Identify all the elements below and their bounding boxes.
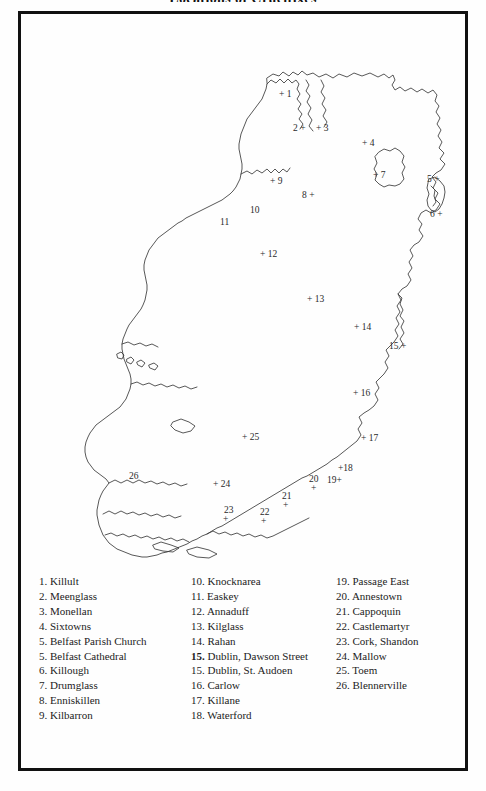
legend-item-name: Castlemartyr xyxy=(353,620,410,632)
legend-item-name: Meenglass xyxy=(50,590,97,602)
legend-item-number: 20. xyxy=(336,590,350,602)
map-marker-3: + 3 xyxy=(316,124,328,134)
legend-item: 24. Mallow xyxy=(336,649,419,664)
island-south-1 xyxy=(153,542,179,552)
strangford-lough xyxy=(431,186,436,206)
shannon-estuary xyxy=(131,382,197,389)
legend-item-name: Annestown xyxy=(352,590,402,602)
legend-item: 22. Castlemartyr xyxy=(336,619,419,634)
map-marker-17: + 17 xyxy=(361,434,378,444)
legend-item-name: Cappoquin xyxy=(353,605,401,617)
legend-item-number: 11. xyxy=(191,590,204,602)
legend-item-name: Mallow xyxy=(353,650,387,662)
legend-item-name: Dublin, St. Audoen xyxy=(208,664,293,676)
legend-item: 18. Waterford xyxy=(191,708,308,723)
clew-bay-inlet xyxy=(122,342,158,347)
legend-item-name: Belfast Cathedral xyxy=(50,650,127,662)
legend-item: 3. Monellan xyxy=(39,604,147,619)
legend-item-name: Toem xyxy=(352,664,377,676)
map-plus-mark-21: + xyxy=(283,501,288,511)
legend-item-name: Carlow xyxy=(208,679,240,691)
map-marker-18: +18 xyxy=(338,464,353,474)
dingle-peninsula xyxy=(109,480,187,486)
map-marker-10: 10 xyxy=(250,206,260,216)
legend-item: 5. Belfast Cathedral xyxy=(39,649,147,664)
legend-item-number: 5. xyxy=(39,635,47,647)
legend-item-number: 8. xyxy=(39,694,47,706)
map-legend: 1. Killult 2. Meenglass 3. Monellan 4. S… xyxy=(21,574,465,768)
legend-item: 4. Sixtowns xyxy=(39,619,147,634)
legend-item-number: 5. xyxy=(39,650,47,662)
legend-item: 12. Annaduff xyxy=(191,604,308,619)
legend-item: 11. Easkey xyxy=(191,589,308,604)
map-plus-mark-20: + xyxy=(311,484,316,494)
lough-neagh xyxy=(374,148,405,187)
legend-item-number: 3. xyxy=(39,605,47,617)
legend-item: 21. Cappoquin xyxy=(336,604,419,619)
legend-item: 25. Toem xyxy=(336,663,419,678)
legend-item-number: 17. xyxy=(191,694,205,706)
legend-item: 19. Passage East xyxy=(336,574,419,589)
legend-item: 8. Enniskillen xyxy=(39,693,147,708)
legend-item: 26. Blennerville xyxy=(336,678,419,693)
map-marker-26: 26 xyxy=(129,472,139,482)
legend-item-name: Rahan xyxy=(208,635,236,647)
island-west-3 xyxy=(137,360,145,367)
legend-item: 13. Kilglass xyxy=(191,619,308,634)
legend-item-name: Sixtowns xyxy=(50,620,91,632)
legend-item-number: 25. xyxy=(336,664,350,676)
legend-item-number: 9. xyxy=(39,709,47,721)
legend-item: 15. Dublin, Dawson Street xyxy=(191,649,308,664)
legend-item-number: 2. xyxy=(39,590,47,602)
ireland-map: + 1 2 + + 3 + 4 5 + 6 + + 7 8 + + 9 10 1… xyxy=(21,14,465,574)
island-achill xyxy=(171,419,195,433)
legend-item: 23. Cork, Shandon xyxy=(336,634,419,649)
lough-swilly xyxy=(306,80,313,131)
legend-item: 17. Killane xyxy=(191,693,308,708)
legend-item: 14. Rahan xyxy=(191,634,308,649)
legend-item-name: Knocknarea xyxy=(208,575,261,587)
map-marker-2: 2 + xyxy=(293,124,305,134)
legend-item-name: Killult xyxy=(50,575,79,587)
map-marker-7: + 7 xyxy=(373,171,385,181)
map-marker-13: + 13 xyxy=(307,295,324,305)
map-marker-16: + 16 xyxy=(353,389,370,399)
legend-item-name: Enniskillen xyxy=(50,694,100,706)
map-plus-mark-22: + xyxy=(261,517,266,527)
north-coast-detail xyxy=(241,168,290,174)
legend-item-number: 23. xyxy=(336,635,350,647)
legend-item-name: Belfast Parish Church xyxy=(50,635,147,647)
legend-item-name: Dublin, Dawson Street xyxy=(208,650,309,662)
legend-item-name: Easkey xyxy=(207,590,239,602)
ireland-main-coast xyxy=(85,71,445,557)
legend-item: 7. Drumglass xyxy=(39,678,147,693)
map-marker-11: 11 xyxy=(220,218,229,228)
legend-item-name: Passage East xyxy=(353,575,410,587)
legend-item-name: Annaduff xyxy=(207,605,249,617)
map-marker-9: + 9 xyxy=(270,177,282,187)
legend-item: 5. Belfast Parish Church xyxy=(39,634,147,649)
legend-item-name: Killough xyxy=(50,664,89,676)
legend-item: 20. Annestown xyxy=(336,589,419,604)
legend-item: 6. Killough xyxy=(39,663,147,678)
lough-foyle xyxy=(321,80,327,127)
legend-item-name: Kilglass xyxy=(208,620,244,632)
legend-column-2: 10. Knocknarea 11. Easkey 12. Annaduff 1… xyxy=(191,574,308,723)
legend-column-3: 19. Passage East 20. Annestown 21. Cappo… xyxy=(336,574,419,693)
legend-item-number: 13. xyxy=(191,620,205,632)
legend-item-number: 26. xyxy=(336,679,350,691)
map-marker-14: + 14 xyxy=(354,323,371,333)
legend-item-number: 12. xyxy=(191,605,205,617)
legend-item-name: Monellan xyxy=(50,605,92,617)
map-marker-1: + 1 xyxy=(279,90,291,100)
legend-item-name: Waterford xyxy=(207,709,251,721)
figure-title: Locations of Crucifixes xyxy=(0,0,486,2)
legend-item: 16. Carlow xyxy=(191,678,308,693)
figure-frame: + 1 2 + + 3 + 4 5 + 6 + + 7 8 + + 9 10 1… xyxy=(18,11,468,771)
map-plus-mark-23: + xyxy=(223,515,228,525)
legend-item: 1. Killult xyxy=(39,574,147,589)
ireland-outline-svg xyxy=(21,14,465,574)
map-marker-25: + 25 xyxy=(242,433,259,443)
legend-item-number: 19. xyxy=(336,575,350,587)
map-marker-4: + 4 xyxy=(362,139,374,149)
